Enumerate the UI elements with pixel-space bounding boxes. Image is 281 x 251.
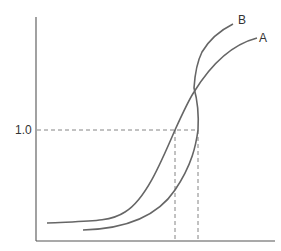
curve-b	[83, 24, 233, 230]
curve-a	[47, 38, 257, 223]
curve-b-label: B	[238, 13, 246, 27]
y-tick-label: 1.0	[15, 123, 32, 137]
diagram-canvas: 1.0 B A	[0, 0, 281, 251]
curve-a-label: A	[259, 31, 267, 45]
